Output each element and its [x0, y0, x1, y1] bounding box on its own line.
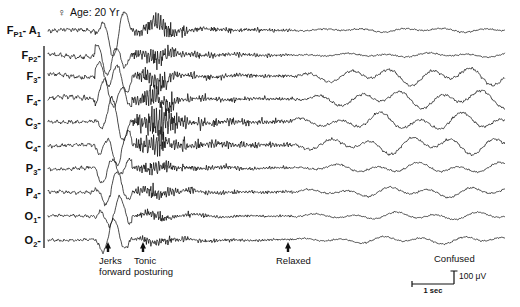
annotation-label-line2: forward: [99, 266, 131, 277]
calibration-time-label: 1 sec: [424, 286, 443, 295]
calibration-amplitude-label: 100 μV: [459, 271, 486, 281]
annotation-confused: Confused: [434, 253, 475, 264]
eeg-chart: ♀ Age: 20 Yr FP1- A1FP2-F3-F4-C3-C4-P3-P…: [0, 0, 520, 307]
annotation-label-line2: posturing: [134, 266, 173, 277]
annotation-label-line1: Confused: [434, 253, 475, 264]
patient-age-label: Age: 20 Yr: [70, 6, 120, 18]
sex-symbol: ♀: [58, 6, 66, 18]
eeg-canvas: ♀ Age: 20 Yr FP1- A1FP2-F3-F4-C3-C4-P3-P…: [0, 0, 520, 307]
annotation-label-line1: Jerks: [99, 255, 122, 266]
annotation-label-line1: Tonic: [134, 255, 156, 266]
annotation-label-line1: Relaxed: [276, 255, 311, 266]
